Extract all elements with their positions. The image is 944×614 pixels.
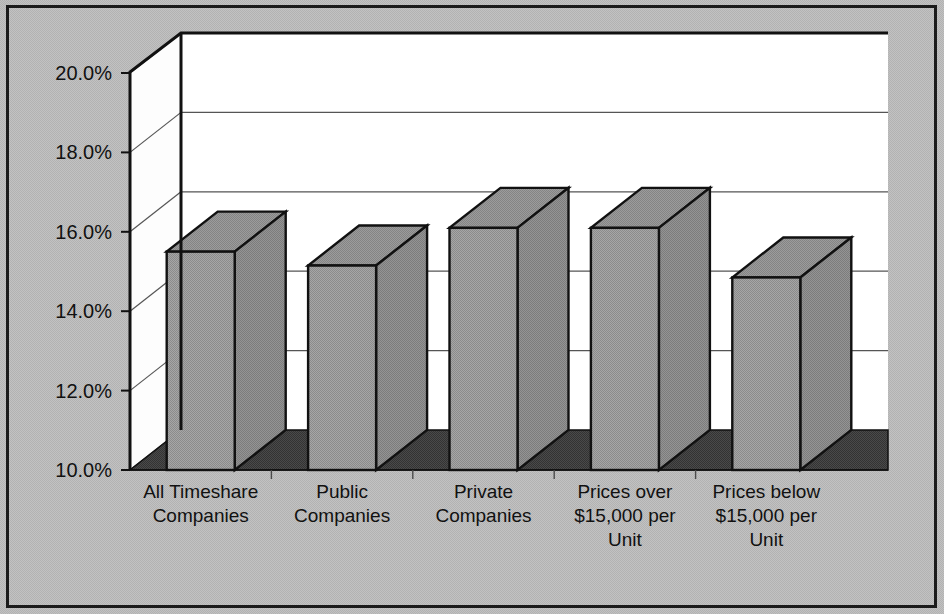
- x-category-label: PrivateCompanies: [435, 481, 531, 526]
- bar-side-face: [235, 212, 286, 470]
- y-tick-label: 18.0%: [55, 141, 112, 163]
- bar: [450, 188, 569, 470]
- y-tick-label: 10.0%: [55, 459, 112, 481]
- bar-side-face: [518, 188, 569, 470]
- x-category-line: Unit: [749, 529, 784, 550]
- bar: [167, 212, 286, 470]
- bar-front-face: [450, 228, 518, 470]
- x-category-line: Companies: [153, 505, 249, 526]
- x-category-line: Public: [316, 481, 368, 502]
- x-category-line: $15,000 per: [574, 505, 676, 526]
- y-tick-label: 12.0%: [55, 380, 112, 402]
- bar-side-face: [376, 226, 427, 470]
- y-tick-label: 16.0%: [55, 221, 112, 243]
- x-category-label: Prices below$15,000 perUnit: [712, 481, 820, 550]
- x-category-line: Companies: [294, 505, 390, 526]
- y-tick-label: 20.0%: [55, 62, 112, 84]
- bar: [732, 237, 851, 470]
- x-category-line: Prices over: [577, 481, 673, 502]
- x-category-line: Unit: [608, 529, 643, 550]
- bar: [591, 188, 710, 470]
- y-tick-label: 14.0%: [55, 300, 112, 322]
- bar-front-face: [732, 277, 800, 470]
- bar-side-face: [659, 188, 710, 470]
- bar-side-face: [800, 237, 851, 470]
- x-category-line: Private: [454, 481, 513, 502]
- x-category-label: PublicCompanies: [294, 481, 390, 526]
- bar-front-face: [167, 252, 235, 470]
- y-axis: 20.0%18.0%16.0%14.0%12.0%10.0%: [55, 62, 130, 481]
- bar-front-face: [308, 266, 376, 470]
- x-category-line: Prices below: [712, 481, 820, 502]
- x-category-line: All Timeshare: [143, 481, 258, 502]
- bar-front-face: [591, 228, 659, 470]
- bar-chart-3d: 20.0%18.0%16.0%14.0%12.0%10.0% All Times…: [0, 0, 944, 614]
- x-category-line: $15,000 per: [716, 505, 818, 526]
- x-category-line: Companies: [435, 505, 531, 526]
- x-category-label: All TimeshareCompanies: [143, 481, 258, 526]
- x-axis: All TimeshareCompaniesPublicCompaniesPri…: [130, 470, 888, 550]
- bar: [308, 226, 427, 470]
- chart-figure: 20.0%18.0%16.0%14.0%12.0%10.0% All Times…: [0, 0, 944, 614]
- x-category-label: Prices over$15,000 perUnit: [574, 481, 676, 550]
